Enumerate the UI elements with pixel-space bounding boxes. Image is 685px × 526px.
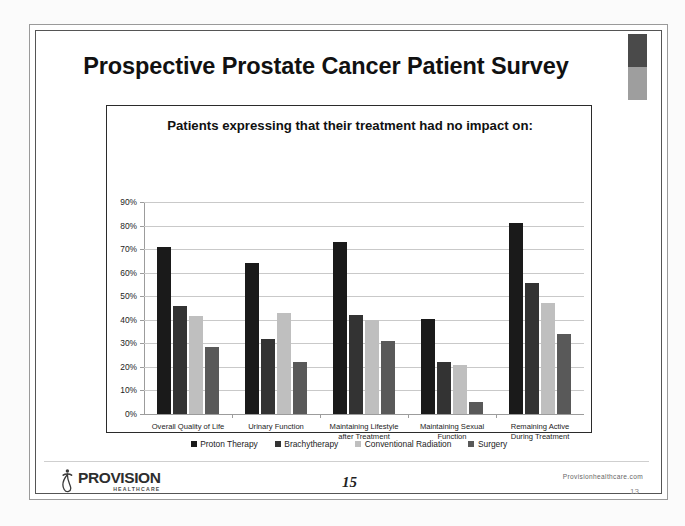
y-axis-tick-label: 60% <box>120 268 137 278</box>
legend-label: Surgery <box>478 439 507 449</box>
chart-bar <box>293 362 307 414</box>
chart-bar-group <box>144 202 232 414</box>
y-axis-tick-label: 0% <box>125 409 137 419</box>
chart-bar <box>333 242 347 414</box>
chart-bar-group <box>408 202 496 414</box>
page-title: Prospective Prostate Cancer Patient Surv… <box>36 53 616 80</box>
chart-bar <box>541 303 555 414</box>
footer-slide-number: 13 <box>630 487 639 496</box>
y-axis-tick-label: 70% <box>120 244 137 254</box>
accent-block-light <box>628 67 647 100</box>
chart-legend: Proton TherapyBrachytherapyConventional … <box>106 439 592 449</box>
chart-bar <box>381 341 395 414</box>
legend-swatch-icon <box>355 441 361 447</box>
x-axis-line <box>144 414 584 415</box>
chart-bar <box>205 347 219 414</box>
legend-label: Conventional Radiation <box>365 439 452 449</box>
chart-bar <box>277 313 291 414</box>
chart-bar <box>525 283 539 414</box>
legend-item[interactable]: Surgery <box>468 439 507 449</box>
y-axis-tick-label: 90% <box>120 197 137 207</box>
chart-bar <box>157 247 171 414</box>
legend-label: Brachytherapy <box>284 439 338 449</box>
chart-bar <box>557 334 571 414</box>
chart-bar <box>365 320 379 414</box>
legend-label: Proton Therapy <box>200 439 258 449</box>
chart-plot-area: 0%10%20%30%40%50%60%70%80%90% <box>144 202 584 414</box>
legend-item[interactable]: Brachytherapy <box>275 439 339 449</box>
y-axis-tick-label: 50% <box>120 291 137 301</box>
chart-bar-group <box>232 202 320 414</box>
chart-bar <box>453 365 467 414</box>
footer-website-url: Provisionhealthcare.com <box>563 473 643 480</box>
chart-title: Patients expressing that their treatment… <box>133 116 567 135</box>
chart-bar <box>437 362 451 414</box>
y-axis-tick-label: 40% <box>120 315 137 325</box>
chart-bar-group <box>320 202 408 414</box>
legend-item[interactable]: Conventional Radiation <box>355 439 451 449</box>
chart-bar <box>245 263 259 414</box>
y-axis-tick-label: 30% <box>120 338 137 348</box>
chart-container: Patients expressing that their treatment… <box>106 105 592 433</box>
scanned-slide-page: Prospective Prostate Cancer Patient Surv… <box>0 0 685 526</box>
chart-bar <box>349 315 363 414</box>
chart-bar-group <box>496 202 584 414</box>
footer-divider <box>44 461 649 462</box>
presentation-slide: Prospective Prostate Cancer Patient Surv… <box>35 30 662 494</box>
chart-bar <box>421 319 435 414</box>
legend-swatch-icon <box>468 441 474 447</box>
y-axis-tick-label: 80% <box>120 221 137 231</box>
x-axis-category-label: Overall Quality of Life <box>144 422 232 432</box>
chart-bar <box>189 316 203 414</box>
x-axis-category-label: Urinary Function <box>232 422 320 432</box>
accent-block-dark <box>628 34 647 67</box>
chart-bar <box>173 306 187 414</box>
legend-item[interactable]: Proton Therapy <box>191 439 258 449</box>
chart-bar <box>469 402 483 414</box>
y-axis-tick-label: 20% <box>120 362 137 372</box>
legend-swatch-icon <box>191 441 197 447</box>
legend-swatch-icon <box>275 441 281 447</box>
chart-bar <box>509 223 523 414</box>
chart-bar <box>261 339 275 414</box>
y-axis-tick-label: 10% <box>120 385 137 395</box>
